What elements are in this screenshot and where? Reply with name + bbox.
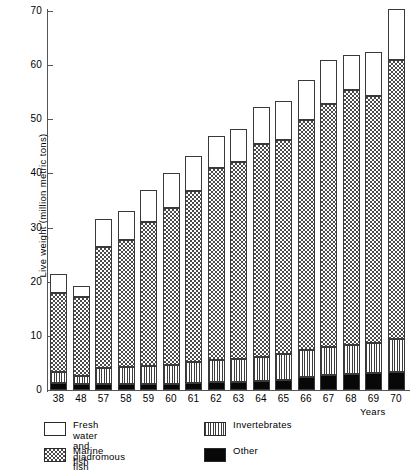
legend-swatch-icon: [44, 448, 66, 462]
bar-segment-other: [344, 374, 359, 389]
legend-swatch-icon: [204, 422, 226, 436]
bar-38[interactable]: [50, 274, 67, 390]
bar-segment-other: [164, 384, 179, 389]
bar-segment-marine-fish: [96, 247, 111, 368]
bar-segment-fresh-water-and-diadromous-fish: [51, 274, 66, 293]
bar-segment-fresh-water-and-diadromous-fish: [164, 173, 179, 207]
bar-segment-invertebrates: [186, 362, 201, 383]
bar-segment-other: [366, 373, 381, 389]
bar-66[interactable]: [298, 80, 315, 390]
bar-segment-invertebrates: [74, 376, 89, 384]
x-axis-tick-label-70: 70: [386, 393, 407, 404]
bar-segment-marine-fish: [344, 90, 359, 345]
bar-segment-marine-fish: [389, 60, 404, 339]
bar-segment-marine-fish: [254, 144, 269, 356]
y-axis-tick-label: 10: [0, 331, 42, 341]
bar-segment-invertebrates: [276, 354, 291, 380]
legend-swatch-icon: [44, 422, 66, 436]
bar-segment-other: [51, 383, 66, 389]
bar-64[interactable]: [253, 107, 270, 390]
bar-segment-other: [389, 372, 404, 389]
bar-segment-marine-fish: [231, 162, 246, 360]
x-axis-tick-label-62: 62: [206, 393, 227, 404]
bar-segment-fresh-water-and-diadromous-fish: [321, 60, 336, 104]
bar-segment-marine-fish: [51, 293, 66, 372]
x-axis-line: [47, 390, 410, 391]
bar-segment-fresh-water-and-diadromous-fish: [344, 55, 359, 90]
bar-48[interactable]: [73, 286, 90, 390]
bar-65[interactable]: [275, 101, 292, 390]
bar-segment-other: [254, 381, 269, 389]
bar-segment-fresh-water-and-diadromous-fish: [74, 286, 89, 297]
bar-segment-invertebrates: [231, 359, 246, 382]
bar-segment-marine-fish: [321, 104, 336, 348]
bar-segment-invertebrates: [299, 350, 314, 377]
bar-62[interactable]: [208, 136, 225, 390]
bar-segment-invertebrates: [164, 365, 179, 384]
bar-segment-marine-fish: [186, 191, 201, 362]
bar-57[interactable]: [95, 219, 112, 390]
plot-area: [47, 11, 408, 390]
bar-segment-fresh-water-and-diadromous-fish: [119, 211, 134, 240]
bar-segment-other: [209, 382, 224, 389]
bar-63[interactable]: [230, 129, 247, 390]
bar-segment-other: [276, 380, 291, 389]
y-axis-tick-label: 70: [0, 6, 42, 16]
bar-segment-marine-fish: [366, 96, 381, 343]
legend-label: Other: [233, 446, 258, 457]
bar-segment-invertebrates: [119, 367, 134, 384]
bar-segment-fresh-water-and-diadromous-fish: [231, 129, 246, 162]
bar-segment-fresh-water-and-diadromous-fish: [276, 101, 291, 140]
x-axis-tick-label-68: 68: [341, 393, 362, 404]
bar-segment-marine-fish: [276, 140, 291, 354]
bar-segment-fresh-water-and-diadromous-fish: [254, 107, 269, 144]
y-axis-tick: [47, 390, 53, 391]
bar-60[interactable]: [163, 173, 180, 390]
stacked-bar-chart-figure: Live weight (million metric tons) 010203…: [0, 0, 416, 475]
bar-segment-invertebrates: [209, 360, 224, 382]
bar-70[interactable]: [388, 9, 405, 390]
x-axis-tick-label-57: 57: [93, 393, 114, 404]
x-axis-tick-label-61: 61: [183, 393, 204, 404]
y-axis-tick-label: 0: [0, 385, 42, 395]
bar-69[interactable]: [365, 52, 382, 390]
bar-segment-invertebrates: [321, 347, 336, 375]
x-axis-tick-label-48: 48: [71, 393, 92, 404]
bar-segment-marine-fish: [141, 222, 156, 365]
bar-segment-other: [321, 375, 336, 389]
bar-59[interactable]: [140, 190, 157, 390]
legend-label: Invertebrates: [233, 420, 292, 431]
y-axis-tick-label: 60: [0, 60, 42, 70]
bar-67[interactable]: [320, 60, 337, 390]
bar-segment-fresh-water-and-diadromous-fish: [141, 190, 156, 223]
bar-segment-other: [119, 384, 134, 389]
bar-segment-invertebrates: [389, 339, 404, 371]
bar-segment-marine-fish: [299, 120, 314, 350]
x-axis-tick-label-69: 69: [363, 393, 384, 404]
bar-segment-fresh-water-and-diadromous-fish: [186, 156, 201, 192]
x-axis-tick-label-66: 66: [296, 393, 317, 404]
bar-segment-marine-fish: [209, 168, 224, 360]
bar-segment-other: [74, 384, 89, 389]
x-axis-tick-label-38: 38: [48, 393, 69, 404]
bar-61[interactable]: [185, 156, 202, 390]
x-axis-tick-label-65: 65: [273, 393, 294, 404]
bar-segment-invertebrates: [96, 368, 111, 384]
legend-swatch-icon: [204, 448, 226, 462]
bar-segment-other: [141, 384, 156, 389]
bar-68[interactable]: [343, 55, 360, 390]
bar-segment-invertebrates: [51, 372, 66, 383]
bar-segment-marine-fish: [119, 240, 134, 367]
y-axis-tick-label: 30: [0, 223, 42, 233]
bar-segment-marine-fish: [74, 297, 89, 376]
bar-segment-other: [186, 383, 201, 389]
bar-segment-invertebrates: [254, 357, 269, 381]
bar-segment-invertebrates: [344, 345, 359, 374]
x-axis-tick-label-60: 60: [161, 393, 182, 404]
bar-segment-invertebrates: [366, 343, 381, 373]
bar-58[interactable]: [118, 211, 135, 390]
bar-segment-other: [96, 384, 111, 389]
y-axis-tick-label: 20: [0, 277, 42, 287]
x-axis-tick-label-63: 63: [228, 393, 249, 404]
x-axis-tick-label-59: 59: [138, 393, 159, 404]
